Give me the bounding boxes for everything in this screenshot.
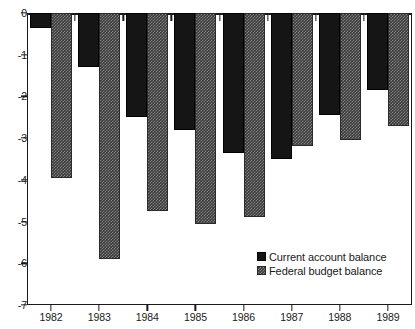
- x-axis-tick-label: 1989: [376, 311, 399, 323]
- legend-item-federal-budget-balance: Federal budget balance: [257, 264, 387, 277]
- bar-1985-series-0: [174, 13, 195, 130]
- bar-1988-series-0: [319, 13, 340, 115]
- top-axis-tick-mark: [363, 14, 364, 21]
- chart-legend: Current account balance Federal budget b…: [257, 250, 387, 277]
- bar-1986-series-0: [223, 13, 244, 153]
- top-axis-tick-mark: [74, 14, 75, 21]
- y-axis-labels: 0-1-2-3-4-5-6-7: [0, 0, 27, 329]
- x-axis-tick-label: 1983: [88, 311, 111, 323]
- top-axis-tick-mark: [315, 14, 316, 21]
- bar-1984-series-1: [147, 13, 168, 211]
- top-axis-tick-mark: [267, 14, 268, 21]
- plot-right-border: [411, 13, 413, 305]
- bar-1989-series-0: [367, 13, 388, 90]
- bar-1989-series-1: [388, 13, 409, 126]
- solid-black-swatch-icon: [257, 252, 266, 261]
- bar-1982-series-0: [30, 13, 51, 28]
- y-axis-tick-label: -7: [7, 299, 27, 311]
- bar-1985-series-1: [195, 13, 216, 224]
- y-axis-tick-label: -6: [7, 257, 27, 269]
- top-axis-tick-mark: [171, 14, 172, 21]
- bar-1988-series-1: [340, 13, 361, 140]
- y-axis-tick-label: 0: [7, 7, 27, 19]
- bar-chart-screenshot: 0-1-2-3-4-5-6-7 198219831984198519861987…: [0, 0, 415, 329]
- bar-1987-series-1: [292, 13, 313, 146]
- y-axis-tick-label: -5: [7, 216, 27, 228]
- y-axis-tick-label: -1: [7, 49, 27, 61]
- y-axis-tick-label: -2: [7, 90, 27, 102]
- x-axis-tick-label: 1984: [136, 311, 159, 323]
- legend-item-current-account-balance: Current account balance: [257, 250, 387, 263]
- x-axis-tick-label: 1987: [280, 311, 303, 323]
- x-axis-tick-label: 1985: [184, 311, 207, 323]
- y-axis-tick-label: -3: [7, 132, 27, 144]
- x-axis-tick-label: 1982: [40, 311, 63, 323]
- legend-label: Federal budget balance: [269, 265, 382, 277]
- top-axis-tick-mark: [123, 14, 124, 21]
- legend-label: Current account balance: [269, 251, 387, 263]
- y-axis-tick-label: -4: [7, 174, 27, 186]
- bar-1983-series-1: [99, 13, 120, 259]
- top-axis-tick-mark: [219, 14, 220, 21]
- x-axis-tick-label: 1986: [232, 311, 255, 323]
- bar-1986-series-1: [244, 13, 265, 217]
- bar-1984-series-0: [126, 13, 147, 117]
- bar-1983-series-0: [78, 13, 99, 67]
- bar-1982-series-1: [51, 13, 72, 178]
- hatched-grey-swatch-icon: [257, 266, 266, 275]
- x-axis-tick-label: 1988: [328, 311, 351, 323]
- bar-1987-series-0: [271, 13, 292, 159]
